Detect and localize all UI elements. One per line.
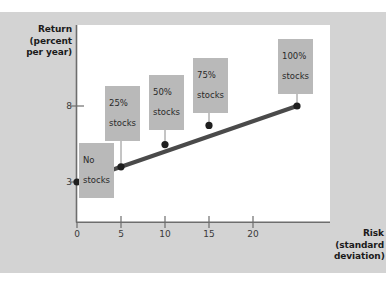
point-label-50-stocks-line-2: stocks: [153, 107, 180, 117]
point-label-no-stocks-line-2: stocks: [83, 175, 110, 185]
point-label-100-stocks-line-1: 100%: [282, 51, 309, 61]
point-label-50-stocks-line-1: 50%: [153, 87, 180, 97]
point-label-75-stocks: 75% stocks: [193, 58, 228, 113]
data-point-marker-75-stocks: [205, 122, 212, 129]
data-point-marker-25-stocks: [117, 163, 124, 170]
point-label-75-stocks-line-2: stocks: [197, 90, 224, 100]
point-label-100-stocks: 100% stocks: [278, 39, 313, 94]
point-label-50-stocks: 50% stocks: [149, 75, 184, 130]
point-label-25-stocks-line-1: 25%: [109, 98, 136, 108]
point-label-100-stocks-line-2: stocks: [282, 71, 309, 81]
data-point-marker-100-stocks: [293, 102, 300, 109]
point-label-25-stocks-line-2: stocks: [109, 118, 136, 128]
point-label-no-stocks: No stocks: [79, 143, 114, 198]
chart-vector-overlay: [0, 0, 386, 281]
risk-return-chart-figure: Return (percent per year) Risk (standard…: [0, 0, 386, 281]
point-label-25-stocks: 25% stocks: [105, 86, 140, 141]
data-point-marker-50-stocks: [161, 141, 168, 148]
point-label-75-stocks-line-1: 75%: [197, 70, 224, 80]
point-label-no-stocks-line-1: No: [83, 155, 110, 165]
